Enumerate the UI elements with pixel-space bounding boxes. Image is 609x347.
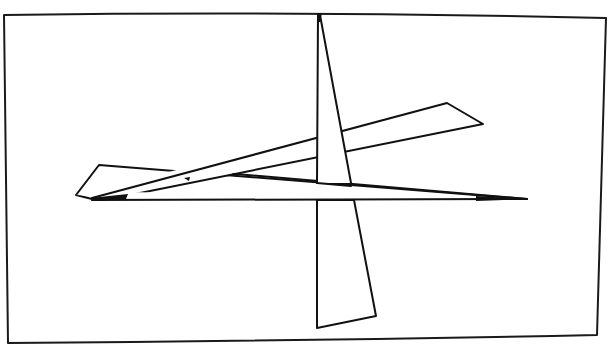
vertical-blade-lower [317, 200, 376, 328]
screen-frame [4, 14, 606, 343]
horizontal-bar-bottom-edge [92, 199, 527, 200]
upper-arm-fill [76, 103, 483, 197]
line-drawing [0, 0, 609, 347]
vertical-blade-left-edge-upper [317, 15, 318, 183]
drawing-canvas [0, 0, 609, 347]
